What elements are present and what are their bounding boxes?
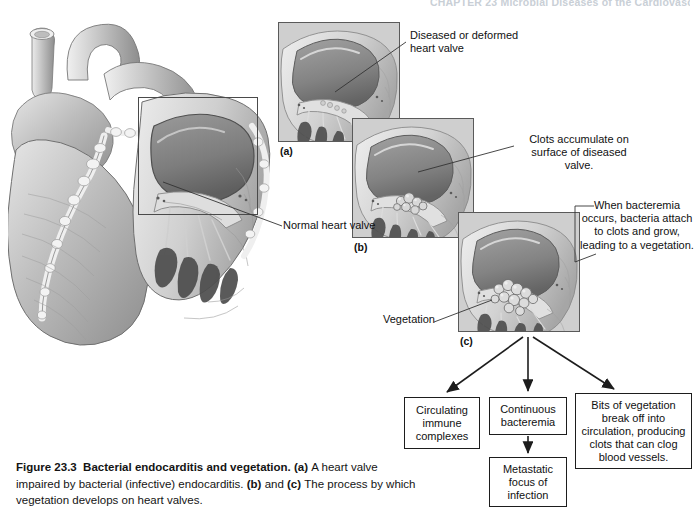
- panel-c-label: (c): [460, 335, 473, 347]
- flow-box-metastatic-focus: Metastatic focus of infection: [489, 457, 567, 507]
- detail-selection-box: [138, 97, 258, 215]
- caption-marker-c: (c): [287, 478, 301, 490]
- figure-number: Figure 23.3: [16, 461, 77, 473]
- caption-and-word: and: [265, 478, 284, 490]
- panel-c-vegetation: [458, 212, 580, 332]
- panel-b-label: (b): [354, 241, 367, 253]
- flow-box-circulating-immune-complexes: Circulating immune complexes: [404, 397, 480, 449]
- caption-marker-a: (a): [294, 461, 308, 473]
- callout-diseased-valve: Diseased or deformed heart valve: [410, 29, 530, 55]
- caption-marker-b: (b): [247, 478, 262, 490]
- callout-normal-heart-valve: Normal heart valve: [283, 219, 393, 232]
- figure-title: Bacterial endocarditis and vegetation.: [83, 461, 291, 473]
- heart-illustration: [8, 18, 276, 348]
- callout-vegetation: Vegetation: [383, 313, 461, 326]
- callout-bacteremia: When bacteremia occurs, bacteria attach …: [578, 199, 696, 252]
- figure-container: CHAPTER 23 Microbial Diseases of the Car…: [0, 0, 699, 524]
- figure-caption: Figure 23.3 Bacterial endocarditis and v…: [16, 459, 416, 509]
- flow-box-bits-of-vegetation: Bits of vegetation break off into circul…: [575, 393, 692, 469]
- callout-clots-accumulate: Clots accumulate on surface of diseased …: [518, 133, 640, 173]
- flow-box-continuous-bacteremia: Continuous bacteremia: [489, 397, 567, 435]
- panel-a-label: (a): [280, 145, 293, 157]
- running-head: CHAPTER 23 Microbial Diseases of the Car…: [430, 0, 690, 6]
